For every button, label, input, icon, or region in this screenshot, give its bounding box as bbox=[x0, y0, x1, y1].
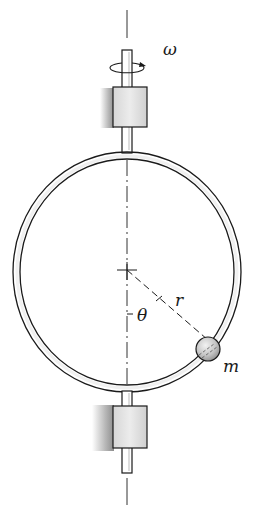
center-mark bbox=[117, 262, 137, 280]
upper-wall-support bbox=[100, 88, 114, 128]
bead-mass bbox=[196, 337, 220, 361]
radius-label: r bbox=[175, 290, 184, 310]
upper-bearing bbox=[113, 87, 147, 127]
rotating-hoop-diagram: ω r θ m bbox=[0, 0, 256, 514]
omega-label: ω bbox=[163, 39, 177, 59]
lower-wall-support bbox=[92, 405, 114, 451]
theta-label: θ bbox=[137, 305, 147, 325]
lower-bearing bbox=[113, 406, 147, 448]
mass-label: m bbox=[223, 356, 239, 376]
